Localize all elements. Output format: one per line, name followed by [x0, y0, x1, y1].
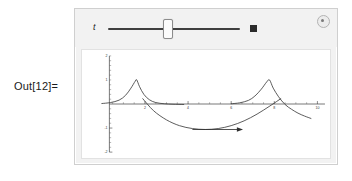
- x-tick-label: 8: [273, 107, 275, 111]
- y-tick-label: 1: [106, 78, 108, 82]
- slider-thumb[interactable]: [163, 19, 173, 39]
- y-tick-label: 2: [106, 54, 108, 58]
- gear-circle-icon[interactable]: [317, 15, 330, 28]
- manipulate-control-band: t: [75, 9, 337, 47]
- x-tick-label: 2: [144, 107, 146, 111]
- plot-content: 246810-2-112: [102, 54, 325, 154]
- slider-label: t: [93, 22, 96, 32]
- y-tick-label: -1: [104, 126, 107, 130]
- out-label: Out[12]=: [14, 80, 58, 92]
- t-slider[interactable]: [108, 27, 240, 31]
- curve-pulse-2: [231, 80, 311, 119]
- slider-track[interactable]: [108, 28, 240, 30]
- plot-panel: 246810-2-112: [81, 49, 331, 159]
- x-tick-label: 4: [187, 107, 189, 111]
- arrow-head: [237, 127, 243, 131]
- plot-svg: 246810-2-112: [82, 50, 330, 158]
- x-tick-label: 6: [230, 107, 232, 111]
- animate-button[interactable]: [250, 25, 257, 32]
- x-tick-label: 10: [315, 107, 319, 111]
- manipulate-panel: t 246810-2-112: [74, 8, 338, 165]
- y-tick-label: -2: [104, 150, 107, 154]
- curve-pulse-1: [102, 80, 184, 105]
- notebook-output-cell: Out[12]= t 246810-2-112: [0, 0, 352, 181]
